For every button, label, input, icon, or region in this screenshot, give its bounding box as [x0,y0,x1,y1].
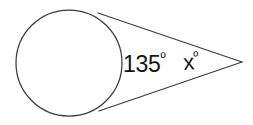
interior-angle-value: 135 [123,51,160,77]
exterior-angle-degree-icon: º [193,49,199,64]
geometry-figure: 135º xº [0,0,253,125]
upper-tangent-line [98,13,242,62]
lower-tangent-line [99,62,242,111]
interior-angle-degree-icon: º [160,50,165,66]
exterior-angle-label: xº [182,51,199,74]
circle-shape [16,10,122,116]
interior-angle-label: 135º [123,53,166,76]
